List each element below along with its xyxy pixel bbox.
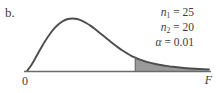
distribution-curve xyxy=(27,19,209,72)
curve-group xyxy=(27,19,209,72)
x-axis-label: F xyxy=(205,74,212,86)
axis-origin-label: 0 xyxy=(22,75,28,87)
distribution-plot xyxy=(0,0,217,93)
f-distribution-figure: b. n1 = 25 n2 = 20 α = 0.01 0 F xyxy=(0,0,217,93)
